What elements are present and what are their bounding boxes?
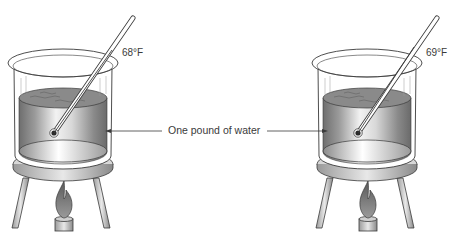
right-temperature-label: 69°F (426, 47, 447, 58)
right-beaker-assembly (312, 18, 437, 231)
diagram: 68°F 69°F One pound of water (0, 0, 457, 239)
water-label: One pound of water (168, 124, 260, 136)
left-pointer-arrow (105, 129, 162, 133)
left-beaker-assembly (8, 18, 133, 231)
left-temperature-label: 68°F (122, 47, 143, 58)
